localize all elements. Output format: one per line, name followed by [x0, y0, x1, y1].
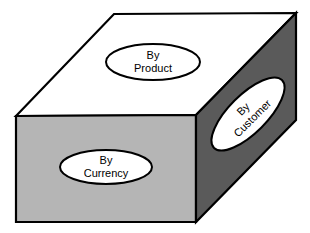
label-group-by-currency: By Currency: [60, 150, 152, 184]
three-dimensional-box-diagram: By Product By Currency By Customer: [0, 0, 310, 233]
label-group-by-product: By Product: [106, 44, 200, 80]
by-product-label-line1: By: [147, 49, 160, 61]
by-product-label-line2: Product: [134, 62, 172, 74]
by-currency-label-line1: By: [100, 154, 113, 166]
by-currency-label-line2: Currency: [84, 167, 129, 179]
box-diagram-container: By Product By Currency By Customer: [0, 0, 310, 233]
